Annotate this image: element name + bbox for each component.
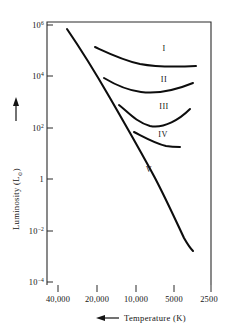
x-tick-label-5000: 5000: [165, 295, 183, 304]
curve-class-III: [119, 105, 190, 127]
class-label-III: III: [159, 102, 168, 111]
y-tick-label-10e2: 102: [32, 123, 44, 133]
y-axis-title: Luminosity (L⊙): [11, 168, 23, 230]
y-axis-tick-labels: 106 104 102 1 10−2 10−4: [29, 20, 44, 287]
y-tick-label-10e-4: 10−4: [29, 277, 44, 287]
y-tick-label-1: 1: [40, 175, 44, 184]
x-tick-label-2500: 2500: [200, 295, 218, 304]
y-axis-arrow-up-icon: [13, 97, 19, 106]
y-tick-label-10e4: 104: [32, 71, 44, 81]
x-axis-title-group: Temperature (K): [96, 313, 186, 323]
y-tick-label-10e-2: 10−2: [29, 226, 44, 236]
luminosity-class-curves: [67, 29, 196, 251]
curve-class-II: [104, 78, 193, 93]
x-axis-arrow-left-icon: [96, 315, 105, 321]
x-tick-label-10000: 10,000: [124, 295, 148, 304]
curve-class-I: [95, 47, 196, 67]
class-label-IV: IV: [158, 130, 167, 139]
y-axis-title-group: Luminosity (L⊙): [11, 97, 23, 230]
x-tick-label-20000: 20,000: [85, 295, 109, 304]
hr-diagram-figure: 106 104 102 1 10−2 10−4: [0, 0, 228, 331]
x-axis-ticks: [58, 285, 211, 292]
curve-class-IV: [134, 132, 180, 147]
class-label-II: II: [161, 75, 167, 84]
class-label-V: V: [146, 165, 152, 174]
class-label-I: I: [162, 44, 165, 53]
class-labels: I II III IV V: [146, 44, 169, 174]
hr-diagram-plot: 106 104 102 1 10−2 10−4: [0, 0, 228, 331]
x-axis-tick-labels: 40,000 20,000 10,000 5000 2500: [46, 295, 218, 304]
y-axis-ticks: [47, 25, 53, 282]
y-tick-label-10e6: 106: [32, 20, 44, 30]
x-tick-label-40000: 40,000: [46, 295, 70, 304]
x-axis-title: Temperature (K): [124, 313, 186, 323]
